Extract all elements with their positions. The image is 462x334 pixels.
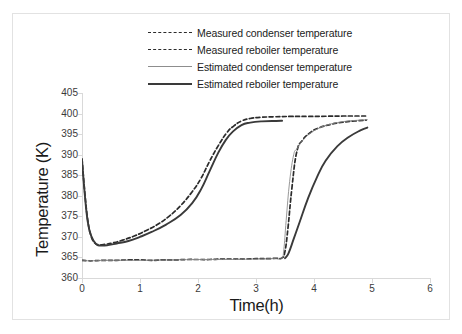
y-tick-mark: [78, 114, 82, 115]
x-tick-label: 0: [71, 283, 93, 294]
y-tick-label: 395: [52, 128, 78, 139]
legend-item-estimated-condenser: Estimated condenser temperature: [148, 58, 448, 75]
x-tick-label: 3: [245, 283, 267, 294]
chart-figure: Measured condenser temperature Measured …: [0, 0, 462, 334]
x-tick-label: 2: [187, 283, 209, 294]
y-tick-mark: [78, 175, 82, 176]
legend-label: Estimated condenser temperature: [197, 61, 352, 73]
legend-label: Estimated reboiler temperature: [197, 78, 338, 90]
series-line: [82, 116, 366, 245]
y-tick-mark: [78, 196, 82, 197]
legend-swatch-dashed-icon: [148, 27, 192, 39]
series-canvas: [82, 93, 430, 278]
legend-item-measured-reboiler: Measured reboiler temperature: [148, 41, 448, 58]
x-tick-label: 4: [303, 283, 325, 294]
y-axis-tick-labels: 360365370375380385390395400405: [50, 88, 78, 288]
legend-item-estimated-reboiler: Estimated reboiler temperature: [148, 75, 448, 92]
y-tick-label: 390: [52, 149, 78, 160]
y-tick-mark: [78, 134, 82, 135]
x-tick-mark: [256, 279, 257, 283]
x-tick-mark: [430, 279, 431, 283]
x-axis-title: Time(h): [82, 296, 431, 315]
y-tick-mark: [78, 237, 82, 238]
legend-swatch-dashed-icon: [148, 44, 192, 56]
y-tick-label: 365: [52, 251, 78, 262]
x-tick-mark: [82, 279, 83, 283]
plot-area: [82, 93, 430, 278]
y-tick-label: 405: [52, 87, 78, 98]
y-tick-mark: [78, 216, 82, 217]
legend-label: Measured reboiler temperature: [197, 44, 338, 56]
x-tick-label: 6: [419, 283, 441, 294]
x-tick-mark: [314, 279, 315, 283]
y-axis-title-wrap: Temperature (K): [14, 90, 40, 290]
x-axis-tick-labels: 0123456: [71, 281, 451, 297]
y-tick-label: 375: [52, 210, 78, 221]
series-line: [82, 121, 282, 246]
y-tick-mark: [78, 93, 82, 94]
chart-legend: Measured condenser temperature Measured …: [148, 24, 448, 92]
x-tick-mark: [198, 279, 199, 283]
y-tick-label: 370: [52, 231, 78, 242]
y-tick-label: 385: [52, 169, 78, 180]
x-tick-label: 1: [129, 283, 151, 294]
y-tick-label: 400: [52, 108, 78, 119]
x-tick-mark: [140, 279, 141, 283]
y-tick-mark: [78, 155, 82, 156]
y-axis-title: Temperature (K): [33, 110, 52, 290]
legend-swatch-thick-line-icon: [148, 78, 192, 90]
x-tick-mark: [372, 279, 373, 283]
y-tick-label: 380: [52, 190, 78, 201]
legend-swatch-thin-line-icon: [148, 61, 192, 73]
x-tick-label: 5: [361, 283, 383, 294]
y-tick-mark: [78, 257, 82, 258]
legend-item-measured-condenser: Measured condenser temperature: [148, 24, 448, 41]
legend-label: Measured condenser temperature: [197, 27, 352, 39]
